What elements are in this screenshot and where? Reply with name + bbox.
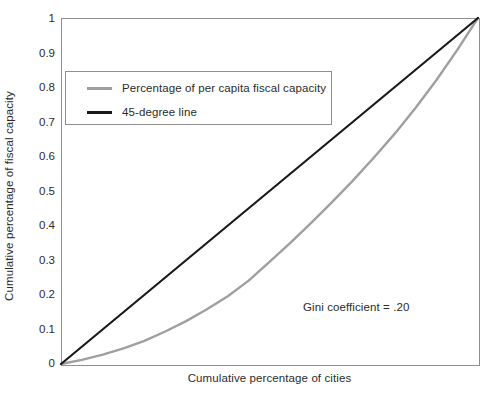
gray-line-swatch (87, 87, 112, 90)
y-tick-label-0-5: 0.5 (15, 184, 55, 198)
legend-label-lorenz: Percentage of per capita fiscal capacity (122, 82, 326, 94)
y-tick-label-1: 1 (15, 11, 55, 25)
black-line-swatch (87, 111, 112, 114)
legend-item-lorenz: Percentage of per capita fiscal capacity (66, 78, 331, 98)
y-tick-label-0: 0 (15, 356, 55, 370)
lorenz-curve-figure: Cumulative percentage of fiscal capacity… (0, 0, 494, 397)
y-tick-label-0-6: 0.6 (15, 149, 55, 163)
legend-item-diagonal: 45-degree line (66, 102, 331, 122)
plot-curves (61, 18, 478, 364)
y-tick-label-0-2: 0.2 (15, 287, 55, 301)
equality-45-degree-line (61, 18, 478, 364)
legend-label-diagonal: 45-degree line (122, 106, 197, 118)
y-tick-label-0-8: 0.8 (15, 80, 55, 94)
y-tick-label-0-7: 0.7 (15, 115, 55, 129)
x-axis-title: Cumulative percentage of cities (61, 372, 478, 384)
y-tick-label-0-3: 0.3 (15, 253, 55, 267)
legend-box: Percentage of per capita fiscal capacity… (65, 71, 332, 125)
y-tick-label-0-9: 0.9 (15, 46, 55, 60)
y-tick-label-0-4: 0.4 (15, 218, 55, 232)
gini-coefficient-annotation: Gini coefficient = .20 (303, 301, 410, 313)
y-tick-label-0-1: 0.1 (15, 322, 55, 336)
